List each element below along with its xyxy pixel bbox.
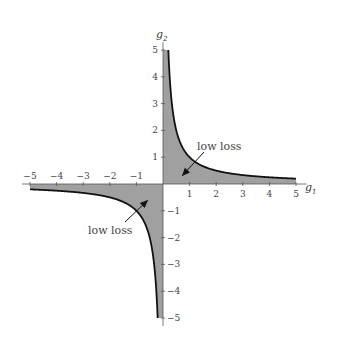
x-tick-label: −4 <box>50 171 64 181</box>
x-tick-label: −5 <box>23 171 37 181</box>
y-tick-label: 1 <box>152 152 158 162</box>
x-tick-label: 5 <box>293 189 299 199</box>
x-tick-label: −1 <box>130 171 143 181</box>
y-tick-label: 2 <box>152 125 158 135</box>
y-tick-label: −3 <box>167 259 181 269</box>
y-axis-label: g2 <box>156 28 168 43</box>
y-tick-label: 3 <box>152 99 158 109</box>
low-loss-annotation: low loss <box>197 140 242 153</box>
x-tick-label: 2 <box>213 189 219 199</box>
y-tick-label: 5 <box>152 45 158 55</box>
low-loss-region <box>163 50 296 184</box>
x-tick-label: 3 <box>240 189 246 199</box>
y-tick-label: −1 <box>167 206 180 216</box>
x-tick-label: −3 <box>77 171 91 181</box>
chart: −5−4−3−2−112345−5−4−3−2−112345 low lossl… <box>0 0 341 337</box>
x-tick-label: 4 <box>267 189 273 199</box>
y-tick-label: −2 <box>167 233 180 243</box>
x-tick-label: −2 <box>103 171 116 181</box>
y-tick-label: 4 <box>152 72 158 82</box>
low-loss-annotation: low loss <box>88 224 133 237</box>
x-tick-label: 1 <box>187 189 193 199</box>
y-tick-label: −4 <box>167 286 181 296</box>
y-tick-label: −5 <box>167 313 181 323</box>
x-axis-label: g1 <box>305 181 317 196</box>
